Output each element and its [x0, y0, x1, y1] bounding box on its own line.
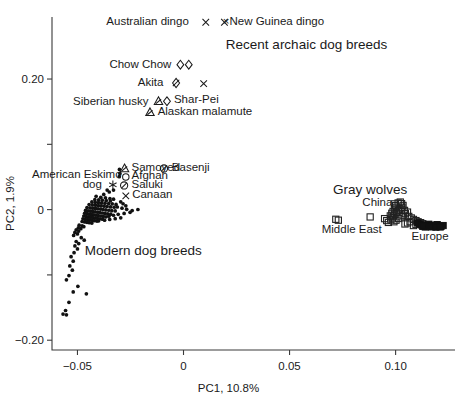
group-label-gray-wolves: Gray wolves: [333, 182, 408, 197]
data-point: [90, 221, 94, 225]
data-point: [68, 264, 72, 268]
data-point: [97, 219, 101, 223]
point-label-australian-dingo: Australian dingo: [106, 15, 188, 27]
point-label-new-guinea-dingo: ×New Guinea dingo: [223, 15, 324, 27]
data-point: [136, 208, 140, 212]
data-point: [67, 274, 71, 278]
data-point: [112, 213, 116, 217]
point-label-middle-east: Middle East: [322, 223, 383, 235]
data-point: [79, 236, 83, 240]
data-point: [65, 278, 69, 282]
marker-x: [200, 80, 207, 87]
data-point: [64, 309, 68, 313]
data-point: [76, 247, 80, 251]
x-tick-label: 0.10: [384, 360, 406, 372]
group-label-modern-dog-breeds: Modern dog breeds: [85, 243, 202, 258]
data-point: [420, 223, 426, 229]
y-tick-label: 0.20: [22, 73, 44, 85]
data-point: [107, 214, 111, 218]
data-point: [122, 212, 126, 216]
data-point: [76, 232, 80, 236]
data-point: [112, 197, 116, 201]
marker-triangle: [146, 108, 154, 116]
data-point: [125, 208, 129, 212]
y-axis-title: PC2, 1.9%: [4, 176, 16, 231]
data-point: [87, 203, 91, 207]
x-axis-title: PC1, 10.8%: [198, 382, 259, 394]
data-point: [112, 188, 116, 192]
point-label-china: China: [362, 196, 393, 208]
marker-asterisk: [109, 181, 116, 189]
point-label-shar-pei: Shar-Pei: [174, 93, 219, 105]
pca-scatter-plot: 0.200−0.20−0.0500.050.10PC1, 10.8%PC2, 1…: [0, 0, 463, 400]
data-point: [72, 234, 76, 238]
data-point: [124, 204, 128, 208]
data-point: [128, 211, 132, 215]
data-point: [72, 251, 76, 255]
y-tick-label: 0: [38, 204, 44, 216]
marker-triangle: [120, 164, 128, 172]
series-gray-wolves-filled: [415, 220, 447, 230]
marker-diamond: [185, 60, 192, 69]
marker-diamond: [177, 60, 184, 69]
data-point: [113, 217, 117, 221]
data-point: [76, 284, 80, 288]
data-point: [65, 313, 69, 317]
data-point: [108, 218, 112, 222]
point-label-basenji: Basenji: [172, 161, 210, 173]
data-point: [103, 218, 107, 222]
data-point: [110, 209, 114, 213]
data-point: [113, 209, 117, 213]
point-label-alaskan-malamute: Alaskan malamute: [158, 105, 253, 117]
data-point: [71, 290, 75, 294]
point-label-canaan: Canaan: [132, 188, 172, 200]
data-point: [71, 268, 75, 272]
point-label-chow-chow: Chow Chow: [109, 58, 172, 70]
data-point: [107, 190, 111, 194]
point-label-siberian-husky: Siberian husky: [73, 95, 149, 107]
marker-x: [123, 193, 130, 200]
data-point: [71, 259, 75, 263]
data-point: [90, 203, 94, 207]
x-tick-label: −0.05: [63, 360, 92, 372]
data-point: [109, 205, 113, 209]
data-point: [115, 205, 119, 209]
data-point: [73, 244, 77, 248]
point-label-akita: Akita: [138, 76, 164, 88]
point-label-american-eskimo: American Eskimo: [32, 168, 121, 180]
y-tick-label: −0.20: [15, 334, 44, 346]
x-tick-label: 0: [180, 360, 186, 372]
data-point: [82, 238, 86, 242]
data-point: [102, 193, 106, 197]
data-point: [119, 216, 123, 220]
data-point: [67, 300, 71, 304]
data-point: [85, 292, 89, 296]
marker-x: [202, 19, 209, 26]
marker-triangle: [154, 97, 162, 105]
data-point: [116, 212, 120, 216]
data-point: [105, 205, 109, 209]
data-point: [94, 194, 98, 198]
marker-slash: [122, 183, 127, 188]
point-label-europe: Europe: [412, 230, 449, 242]
data-point: [367, 214, 373, 220]
data-point: [61, 312, 65, 316]
group-label-recent-archaic-dog-breeds: Recent archaic dog breeds: [226, 37, 388, 52]
data-point: [112, 205, 116, 209]
data-point: [69, 255, 73, 259]
data-point: [120, 206, 124, 210]
marker-circle: [123, 174, 129, 180]
x-tick-label: 0.05: [278, 360, 300, 372]
chart-canvas: 0.200−0.20−0.0500.050.10PC1, 10.8%PC2, 1…: [0, 0, 463, 400]
data-point: [77, 242, 81, 246]
point-label-dog: dog: [83, 178, 102, 190]
